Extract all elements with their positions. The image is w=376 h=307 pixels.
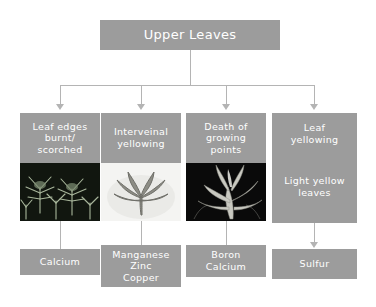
node-nutrient-4[interactable]: Sulfur (272, 249, 357, 279)
symptom-line: Death of (204, 121, 247, 133)
arrow-down-icon-5 (310, 242, 318, 248)
symptom-line: points (211, 144, 242, 156)
symptom-line: yellowing (291, 134, 339, 146)
node-nutrient-1[interactable]: Calcium (20, 249, 100, 275)
diagram-canvas: Upper Leaves Leaf edges burnt/ scorched (0, 0, 376, 307)
symptom-line: growing (206, 132, 246, 144)
nutrient-label: Zinc (130, 260, 152, 272)
symptom-line: scorched (37, 144, 82, 156)
connector-drop-1 (60, 85, 61, 105)
node-symptom-1[interactable]: Leaf edges burnt/ scorched (20, 113, 100, 163)
connector-root-stem (190, 50, 191, 85)
nutrient-label: Manganese (112, 249, 169, 261)
cannabis-leaf-photo (101, 163, 181, 221)
arrow-down-icon-3 (222, 104, 230, 110)
connector-symptom-to-nutrient-4 (314, 223, 315, 243)
symptom-line: burnt/ (45, 132, 76, 144)
cannabis-growing-tip-photo (186, 163, 266, 221)
cannabis-plant-photo (20, 163, 100, 221)
node-symptom-3[interactable]: Death of growing points (186, 113, 266, 163)
arrow-down-icon-4 (310, 104, 318, 110)
symptom-line: Interveinal (114, 126, 168, 138)
connector-drop-2 (141, 85, 142, 105)
connector-photo-to-nutrient-2 (141, 221, 142, 245)
sub-symptom-line: leaves (298, 187, 331, 199)
node-label: Upper Leaves (144, 27, 237, 43)
symptom-line: Leaf edges (33, 121, 88, 133)
connector-photo-to-nutrient-1 (60, 221, 61, 249)
nutrient-label: Calcium (40, 256, 80, 268)
node-symptom-4[interactable]: Leaf yellowing Light yellow leaves (272, 113, 357, 223)
node-nutrient-3[interactable]: Boron Calcium (186, 245, 266, 277)
node-nutrient-2[interactable]: Manganese Zinc Copper (101, 245, 181, 287)
arrow-down-icon-2 (137, 104, 145, 110)
connector-horizontal-bus (60, 85, 315, 86)
connector-photo-to-nutrient-3 (226, 221, 227, 245)
nutrient-label: Boron (211, 249, 240, 261)
node-symptom-2[interactable]: Interveinal yellowing (101, 113, 181, 163)
nutrient-label: Sulfur (300, 258, 330, 270)
connector-drop-4 (314, 85, 315, 105)
node-upper-leaves[interactable]: Upper Leaves (100, 20, 280, 50)
symptom-line: yellowing (117, 138, 165, 150)
symptom-line: Leaf (304, 122, 325, 134)
nutrient-label: Calcium (206, 261, 246, 273)
nutrient-label: Copper (123, 272, 159, 284)
sub-symptom-line: Light yellow (284, 175, 345, 187)
arrow-down-icon-1 (56, 104, 64, 110)
connector-drop-3 (226, 85, 227, 105)
